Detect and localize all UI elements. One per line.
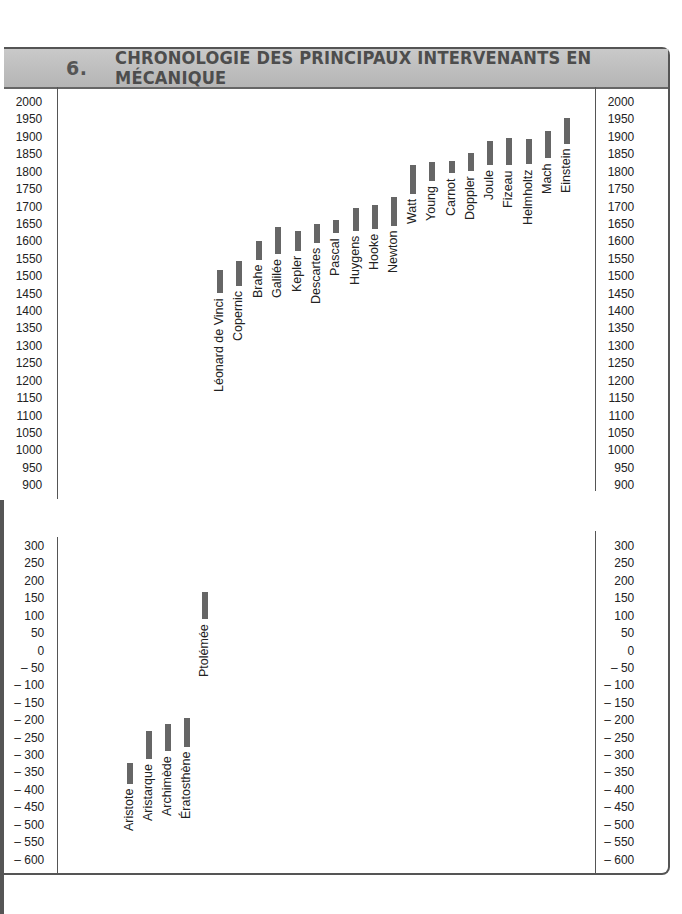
lifespan-bar (314, 224, 320, 243)
upper-left-axis-tick: 1900 (2, 129, 42, 144)
lower-right-axis-tick: 50 (594, 625, 634, 640)
upper-left-axis-tick: 1500 (2, 268, 42, 283)
upper-left-axis-tick: 1650 (2, 216, 42, 231)
lower-left-axis-line (57, 537, 58, 873)
lower-left-axis-tick: – 150 (4, 695, 44, 710)
lifespan-bar (146, 731, 152, 759)
section-title: CHRONOLOGIE DES PRINCIPAUX INTERVENANTS … (115, 48, 629, 88)
upper-right-axis-tick: 1950 (594, 111, 634, 126)
section-header: 6. CHRONOLOGIE DES PRINCIPAUX INTERVENAN… (4, 49, 668, 89)
upper-left-axis-tick: 1150 (2, 390, 42, 405)
lifespan-bar (127, 763, 133, 785)
upper-left-axis-tick: 1750 (2, 181, 42, 196)
lifespan-bar (526, 139, 532, 164)
person-label: Brahe (251, 265, 265, 298)
person-label: Archimède (160, 756, 174, 816)
upper-right-axis-tick: 1450 (594, 286, 634, 301)
person-label: Descartes (309, 247, 323, 303)
lifespan-bar (410, 165, 416, 194)
upper-right-axis-tick: 1400 (594, 303, 634, 318)
upper-left-axis-tick: 1850 (2, 146, 42, 161)
lower-left-axis-tick: 300 (4, 538, 44, 553)
lifespan-bar (429, 162, 435, 182)
lifespan-bar (275, 227, 281, 254)
section-number: 6. (66, 57, 87, 79)
lower-left-axis-tick: – 350 (4, 764, 44, 779)
person-label: Helmholtz (521, 170, 535, 226)
person-label: Ptolémée (197, 624, 211, 677)
lower-left-axis-tick: 250 (4, 555, 44, 570)
upper-left-axis-tick: 1700 (2, 199, 42, 214)
lower-left-axis-tick: 150 (4, 590, 44, 605)
upper-right-axis-tick: 1250 (594, 355, 634, 370)
person-label: Pascal (328, 239, 342, 277)
lifespan-bar (333, 220, 339, 234)
lower-right-axis-tick: – 350 (594, 764, 634, 779)
upper-right-axis-tick: 900 (594, 477, 634, 492)
upper-right-axis-tick: 1750 (594, 181, 634, 196)
lifespan-bar (202, 592, 208, 619)
lower-left-axis-tick: – 550 (4, 834, 44, 849)
person-label: Joule (482, 171, 496, 201)
lifespan-bar (372, 205, 378, 229)
upper-right-axis-tick: 2000 (594, 94, 634, 109)
lower-right-axis-tick: 100 (594, 608, 634, 623)
upper-left-axis-tick: 1000 (2, 442, 42, 457)
upper-right-axis-tick: 1550 (594, 251, 634, 266)
upper-right-axis-tick: 1900 (594, 129, 634, 144)
lower-right-axis-tick: – 450 (594, 799, 634, 814)
upper-left-axis-tick: 1800 (2, 164, 42, 179)
lower-right-axis-tick: – 400 (594, 782, 634, 797)
lower-left-axis-tick: – 500 (4, 817, 44, 832)
lower-right-axis-tick: – 500 (594, 817, 634, 832)
lifespan-bar (217, 270, 223, 293)
lower-right-axis-tick: – 550 (594, 834, 634, 849)
lower-right-axis-tick: 0 (594, 643, 634, 658)
upper-right-axis-tick: 1600 (594, 233, 634, 248)
upper-left-axis-tick: 2000 (2, 94, 42, 109)
person-label: Aristarque (141, 764, 155, 821)
upper-right-axis-tick: 1650 (594, 216, 634, 231)
upper-left-axis-line (57, 87, 58, 499)
person-label: Hooke (367, 234, 381, 270)
upper-right-axis-tick: 1800 (594, 164, 634, 179)
person-label: Young (424, 186, 438, 221)
person-label: Aristote (122, 789, 136, 831)
person-label: Huygens (348, 236, 362, 285)
upper-left-axis-tick: 950 (2, 460, 42, 475)
upper-right-axis-tick: 1350 (594, 320, 634, 335)
lower-left-axis-tick: – 400 (4, 782, 44, 797)
lifespan-bar (545, 131, 551, 158)
upper-left-axis-tick: 1200 (2, 373, 42, 388)
person-label: Mach (540, 164, 554, 195)
lower-right-axis-tick: 150 (594, 590, 634, 605)
lifespan-bar (184, 718, 190, 747)
person-label: Watt (405, 199, 419, 224)
lower-left-axis-tick: 0 (4, 643, 44, 658)
lifespan-bar (449, 161, 455, 174)
lower-left-axis-tick: – 300 (4, 747, 44, 762)
upper-left-axis-tick: 1350 (2, 320, 42, 335)
upper-left-axis-tick: 1050 (2, 425, 42, 440)
lower-left-axis-tick: 50 (4, 625, 44, 640)
lower-right-axis-tick: 300 (594, 538, 634, 553)
upper-right-axis-tick: 1300 (594, 338, 634, 353)
lifespan-bar (391, 197, 397, 226)
person-label: Einstein (559, 149, 573, 193)
upper-right-axis-tick: 950 (594, 460, 634, 475)
lower-right-axis-tick: – 150 (594, 695, 634, 710)
upper-left-axis-tick: 1300 (2, 338, 42, 353)
upper-left-axis-tick: 1250 (2, 355, 42, 370)
lifespan-bar (506, 138, 512, 165)
upper-right-axis-tick: 1050 (594, 425, 634, 440)
lower-right-axis-tick: – 250 (594, 730, 634, 745)
upper-left-axis-tick: 1950 (2, 111, 42, 126)
lower-right-axis-tick: – 50 (594, 660, 634, 675)
lower-left-axis-tick: – 450 (4, 799, 44, 814)
upper-left-axis-tick: 1600 (2, 233, 42, 248)
lifespan-bar (468, 153, 474, 170)
lower-right-axis-tick: 250 (594, 555, 634, 570)
lifespan-bar (564, 118, 570, 144)
person-label: Carnot (444, 179, 458, 217)
lifespan-bar (256, 241, 262, 260)
